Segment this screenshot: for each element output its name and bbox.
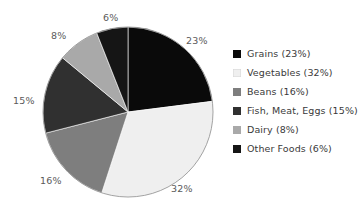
pie-slice-group	[43, 27, 213, 197]
legend-swatch-icon-dairy	[233, 126, 241, 134]
legend-item-grains[interactable]: Grains (23%)	[233, 44, 363, 63]
slice-label-grains: 23%	[186, 36, 208, 46]
legend-item-dairy[interactable]: Dairy (8%)	[233, 120, 363, 139]
legend-label-fish-meat-eggs: Fish, Meat, Eggs (15%)	[247, 106, 358, 116]
legend-item-beans[interactable]: Beans (16%)	[233, 82, 363, 101]
slice-label-other-foods: 6%	[103, 13, 118, 23]
legend-label-vegetables: Vegetables (32%)	[247, 68, 333, 78]
slice-label-fish-meat-eggs: 15%	[13, 96, 35, 106]
legend-label-grains: Grains (23%)	[247, 49, 310, 59]
legend-label-other-foods: Other Foods (6%)	[247, 144, 332, 154]
legend-swatch-icon-vegetables	[233, 69, 241, 77]
pie-svg	[0, 0, 232, 214]
slice-label-vegetables: 32%	[171, 184, 193, 194]
slice-label-dairy: 8%	[51, 31, 66, 41]
legend-item-other-foods[interactable]: Other Foods (6%)	[233, 139, 363, 158]
pie-plot-area: 23% 32% 16% 15% 8% 6%	[0, 0, 232, 214]
legend-label-dairy: Dairy (8%)	[247, 125, 299, 135]
legend-swatch-icon-fish-meat-eggs	[233, 107, 241, 115]
legend: Grains (23%) Vegetables (32%) Beans (16%…	[233, 44, 363, 158]
legend-swatch-icon-grains	[233, 50, 241, 58]
legend-swatch-icon-beans	[233, 88, 241, 96]
legend-item-fish-meat-eggs[interactable]: Fish, Meat, Eggs (15%)	[233, 101, 363, 120]
legend-label-beans: Beans (16%)	[247, 87, 309, 97]
pie-chart-figure: 23% 32% 16% 15% 8% 6% Grains (23%) Veget…	[0, 0, 363, 214]
legend-swatch-icon-other-foods	[233, 145, 241, 153]
slice-label-beans: 16%	[40, 176, 62, 186]
legend-item-vegetables[interactable]: Vegetables (32%)	[233, 63, 363, 82]
